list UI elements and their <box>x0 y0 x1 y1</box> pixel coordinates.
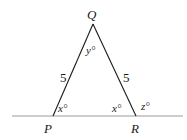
angle-label-q: y° <box>85 44 96 56</box>
side-length-pq: 5 <box>60 70 67 85</box>
vertex-label-q: Q <box>87 7 97 22</box>
triangle-diagram: Q P R 5 5 y° x° x° z° <box>0 0 187 140</box>
vertex-label-r: R <box>130 121 139 136</box>
angle-label-r-exterior: z° <box>140 100 150 112</box>
vertex-label-p: P <box>43 121 52 136</box>
angle-label-r-interior: x° <box>111 102 122 114</box>
side-length-qr: 5 <box>123 70 130 85</box>
angle-label-p: x° <box>57 102 68 114</box>
